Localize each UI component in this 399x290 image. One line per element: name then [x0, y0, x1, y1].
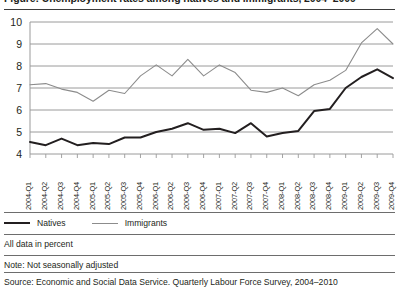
legend-item-immigrants: Immigrants	[92, 218, 168, 228]
y-tick-label: 8	[16, 60, 22, 72]
figure-title-clipped: Figure: Unemployment rates among natives…	[0, 0, 399, 9]
series-line-immigrants	[30, 29, 393, 102]
legend-line-swatch-icon	[92, 223, 118, 224]
legend-label: Natives	[37, 218, 66, 228]
legend-line-swatch-icon	[4, 222, 30, 224]
y-tick-label: 6	[16, 104, 22, 116]
y-tick-label: 5	[16, 126, 22, 138]
legend-label: Immigrants	[125, 218, 168, 228]
x-axis-label: 2008-Q3	[308, 182, 317, 210]
divider-top	[4, 9, 395, 10]
units-note: All data in percent	[4, 239, 73, 249]
series-line-natives	[30, 69, 393, 145]
x-axis-label: 2004-Q2	[40, 182, 49, 210]
x-axis-label: 2006-Q1	[151, 182, 160, 210]
x-axis-label: 2006-Q4	[198, 182, 207, 210]
line-chart: 45678910	[0, 12, 399, 160]
x-axis-label: 2009-Q4	[387, 182, 396, 210]
x-axis-label: 2009-Q1	[340, 182, 349, 210]
chart-plot-area: 45678910	[0, 12, 399, 160]
legend-item-natives: Natives	[4, 218, 66, 228]
chart-legend: NativesImmigrants	[4, 216, 395, 230]
y-tick-label: 9	[16, 38, 22, 50]
page-title: Figure: Unemployment rates among natives…	[4, 0, 356, 4]
x-axis-label: 2008-Q1	[277, 182, 286, 210]
x-axis-label: 2009-Q2	[356, 182, 365, 210]
x-axis-label: 2007-Q1	[214, 182, 223, 210]
x-axis-label: 2008-Q2	[293, 182, 302, 210]
gridlines-group	[30, 22, 393, 154]
x-axis-label: 2005-Q3	[119, 182, 128, 210]
x-axis-label: 2005-Q2	[103, 182, 112, 210]
x-axis-label: 2008-Q4	[324, 182, 333, 210]
figure-panel: Figure: Unemployment rates among natives…	[0, 0, 399, 290]
x-axis-label: 2004-Q4	[72, 182, 81, 210]
x-axis-label: 2005-Q4	[135, 182, 144, 210]
x-axis-labels: 2004-Q12004-Q22004-Q32004-Q42005-Q12005-…	[0, 158, 399, 210]
y-tick-label: 7	[16, 82, 22, 94]
x-axis-label: 2004-Q3	[56, 182, 65, 210]
x-axis-label: 2007-Q2	[230, 182, 239, 210]
divider-above-legend	[4, 212, 395, 213]
divider-above-source	[4, 272, 395, 273]
series-group	[30, 29, 393, 146]
source-note: Source: Economic and Social Data Service…	[4, 277, 338, 287]
x-axis-label: 2007-Q3	[245, 182, 254, 210]
x-axis-label: 2007-Q4	[261, 182, 270, 210]
divider-above-note	[4, 255, 395, 256]
seasonal-note: Note: Not seasonally adjusted	[4, 260, 118, 270]
y-tick-label: 10	[10, 16, 22, 28]
x-axis-label: 2004-Q1	[24, 182, 33, 210]
x-axis-label: 2006-Q2	[166, 182, 175, 210]
x-axis-label: 2009-Q3	[372, 182, 381, 210]
y-axis-tick-labels: 45678910	[10, 16, 22, 160]
x-axis-label: 2005-Q1	[88, 182, 97, 210]
divider-above-units	[4, 234, 395, 235]
x-axis-label: 2006-Q3	[182, 182, 191, 210]
